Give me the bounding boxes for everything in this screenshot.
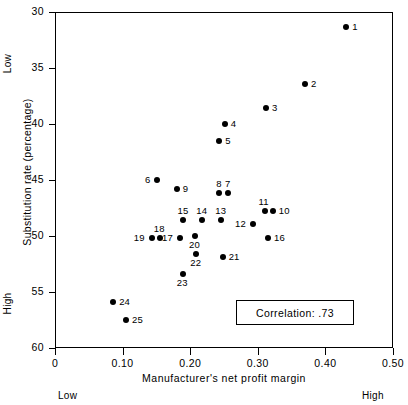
- data-point-label: 9: [183, 183, 188, 194]
- x-tick-label: 0.50: [373, 357, 408, 369]
- x-axis-title: Manufacturer's net profit margin: [55, 372, 393, 384]
- data-point: [250, 221, 256, 227]
- correlation-box: Correlation: .73: [236, 300, 354, 325]
- y-tick-label: 60: [18, 341, 44, 353]
- data-point-label: 12: [235, 218, 246, 229]
- data-point-label: 8: [216, 178, 221, 189]
- data-point-label: 13: [215, 205, 226, 216]
- x-tick-mark: [55, 348, 56, 355]
- data-point-label: 10: [279, 205, 290, 216]
- data-point-label: 2: [311, 78, 316, 89]
- data-point-label: 20: [189, 239, 200, 250]
- data-point-label: 11: [259, 196, 269, 207]
- y-tick-mark: [49, 180, 56, 181]
- data-point: [220, 254, 226, 260]
- y-tick-mark: [49, 292, 56, 293]
- x-tick-label: 0.20: [170, 357, 210, 369]
- data-point-label: 15: [177, 205, 188, 216]
- y-tick-label: 30: [18, 5, 44, 17]
- data-point-label: 1: [352, 21, 357, 32]
- data-point-label: 6: [145, 174, 150, 185]
- y-tick-mark: [49, 68, 56, 69]
- y-axis-low-label: Low: [2, 44, 13, 84]
- data-point-label: 18: [154, 223, 165, 234]
- data-point-label: 21: [229, 251, 240, 262]
- data-point: [157, 235, 163, 241]
- x-tick-mark: [325, 348, 326, 355]
- data-point: [174, 186, 180, 192]
- data-point-label: 24: [119, 296, 130, 307]
- data-point-label: 23: [177, 277, 188, 288]
- data-point-label: 25: [132, 314, 143, 325]
- data-point: [302, 81, 308, 87]
- y-tick-mark: [49, 124, 56, 125]
- data-point-label: 14: [196, 205, 207, 216]
- data-point: [343, 24, 349, 30]
- x-tick-label: 0.40: [305, 357, 345, 369]
- x-axis-low-label: Low: [58, 390, 77, 401]
- data-point-label: 3: [272, 102, 277, 113]
- y-tick-mark: [49, 236, 56, 237]
- data-point: [222, 121, 228, 127]
- x-tick-label: 0: [35, 357, 75, 369]
- correlation-text: Correlation: .73: [256, 307, 334, 319]
- x-tick-mark: [190, 348, 191, 355]
- y-axis-title: Substitution rate (percentage): [21, 72, 33, 272]
- y-tick-mark: [49, 12, 56, 13]
- data-point-label: 4: [231, 118, 236, 129]
- data-point-label: 16: [274, 232, 285, 243]
- y-tick-label: 55: [18, 285, 44, 297]
- data-point-label: 7: [225, 178, 230, 189]
- x-tick-label: 0.10: [103, 357, 143, 369]
- y-axis-high-label: High: [2, 284, 13, 324]
- x-tick-mark: [258, 348, 259, 355]
- data-point-label: 22: [190, 257, 201, 268]
- x-axis-high-label: High: [362, 390, 384, 401]
- plot-area: [55, 12, 393, 348]
- data-point-label: 19: [134, 232, 145, 243]
- data-point: [262, 208, 268, 214]
- x-tick-mark: [393, 348, 394, 355]
- x-tick-label: 0.30: [238, 357, 278, 369]
- x-tick-mark: [123, 348, 124, 355]
- data-point: [149, 235, 155, 241]
- data-point: [123, 317, 129, 323]
- data-point-label: 5: [225, 135, 230, 146]
